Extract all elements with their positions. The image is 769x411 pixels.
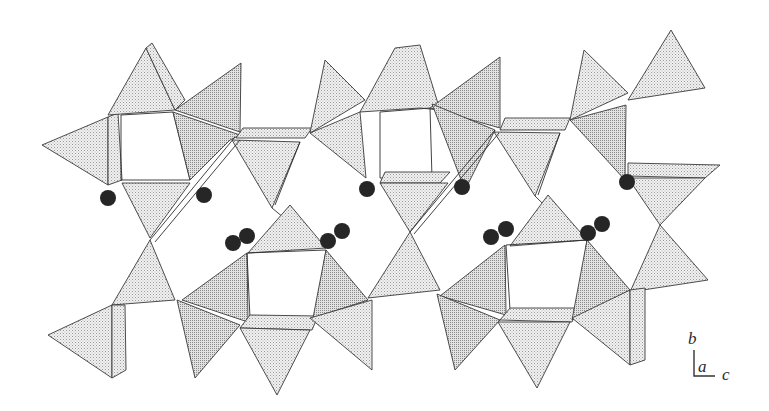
axis-label-c: c [722,366,730,383]
tetrahedron [498,322,570,388]
tetrahedron [494,132,560,196]
atom-sphere [454,179,470,195]
upper-polyhedra-layer [42,30,720,238]
axis-label-b: b [688,330,697,347]
tetrahedron [248,205,326,253]
slab [500,118,570,130]
tetrahedron [240,328,310,395]
tetrahedron [628,30,705,100]
slab [240,315,318,330]
tetrahedron [630,225,708,292]
tetrahedron [112,240,175,305]
cavity-outline [247,250,326,318]
tetrahedron [232,140,300,208]
atom-sphere [498,221,514,237]
slab [500,308,578,322]
atom-sphere [225,235,241,251]
slab [628,163,720,178]
cavity-outline [506,240,587,310]
tetrahedron [360,45,440,112]
slab [380,172,450,183]
atom-sphere [320,233,336,249]
slab [236,128,312,138]
tetrahedron [380,183,448,232]
tetrahedron [112,305,126,378]
tetrahedron [122,183,190,238]
crystal-structure-diagram [0,0,769,411]
atom-sphere [359,181,375,197]
atom-sphere [196,187,212,203]
atom-sphere [619,174,635,190]
slab [630,288,645,365]
tetrahedron [42,117,108,185]
tetrahedron [368,232,440,298]
axis-label-a: a [698,358,707,375]
atom-sphere [239,228,255,244]
atom-sphere [594,216,610,232]
atom-sphere [483,229,499,245]
atom-sphere [334,223,350,239]
atom-sphere [100,190,116,206]
tetrahedron [108,113,122,185]
tetrahedron [628,178,705,225]
atom-sphere [580,225,596,241]
tetrahedron [510,195,587,246]
tetrahedron [48,305,112,378]
cavity-outline [380,108,432,178]
